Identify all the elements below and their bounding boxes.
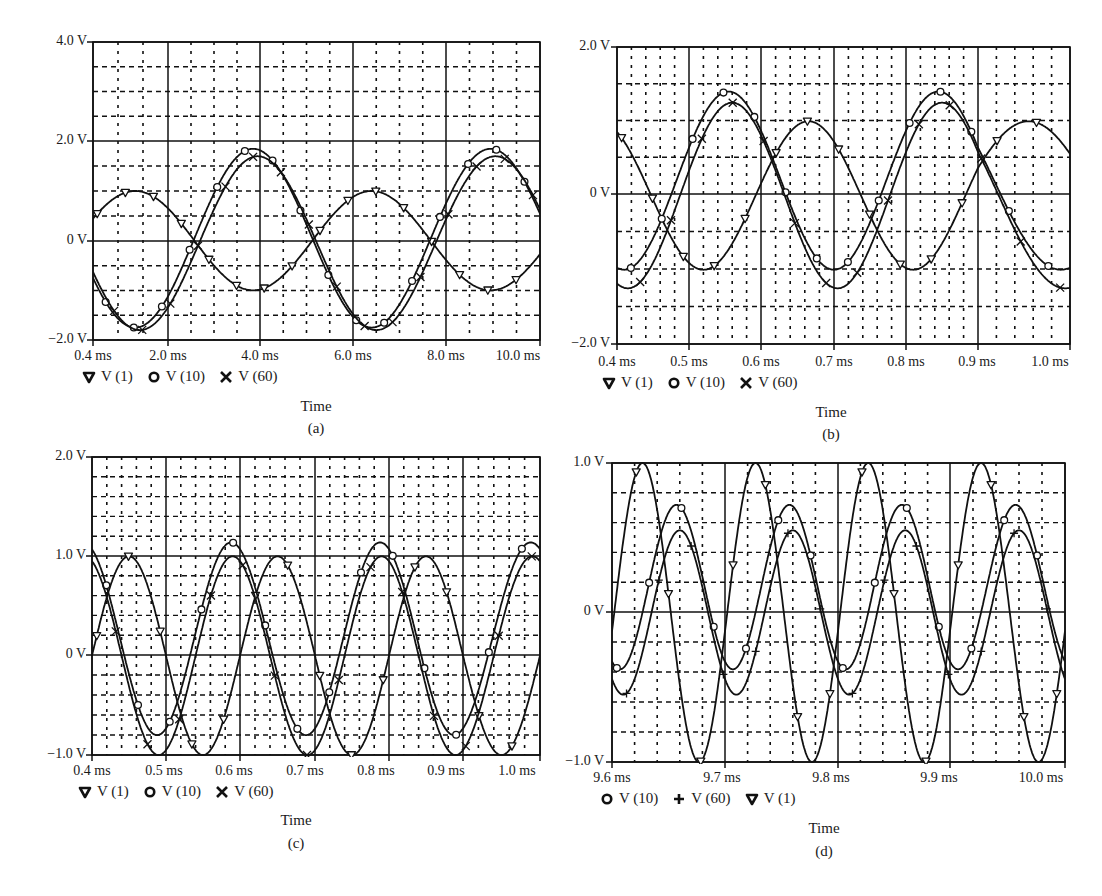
panel-label: (d) [815,843,833,860]
triangle-down-marker-icon [890,591,898,598]
x-tick-label: 9.9 ms [920,770,957,786]
triangle-down-marker-icon [987,482,995,489]
circle-marker-icon [775,517,782,524]
triangle-down-marker-icon [954,562,962,569]
triangle-down-marker-icon [729,562,737,569]
plus-marker-icon [655,576,663,584]
triangle-down-marker-icon [1053,691,1061,698]
triangle-down-marker-icon [826,691,834,698]
chart-panel-d: 1.0 V 0 V −1.0 V 9.6 ms 9.7 ms 9.8 ms 9.… [0,0,1102,896]
circle-marker-icon [968,645,975,652]
y-tick-label: −1.0 V [544,753,604,769]
plus-marker-icon [674,794,684,804]
x-axis-title: Time [808,820,839,837]
circle-marker-icon [743,645,750,652]
x-tick-label: 10.0 ms [1019,770,1063,786]
legend-item: V (1) [745,790,796,807]
plus-marker-icon [880,576,888,584]
triangle-down-marker-icon [665,591,673,598]
circle-marker-icon [903,505,910,512]
legend: V (10)V (60)V (1) [600,790,809,807]
triangle-down-marker-icon [1020,714,1028,721]
plus-marker-icon [977,647,985,655]
legend-label: V (10) [619,790,658,807]
circle-marker-icon [603,794,612,803]
legend-item: V (10) [600,790,658,807]
x-tick-label: 9.7 ms [703,770,740,786]
circle-marker-icon [646,579,653,586]
triangle-down-marker-icon [858,469,866,476]
x-tick-label: 9.8 ms [812,770,849,786]
triangle-down-marker-icon [632,469,640,476]
circle-marker-icon [871,579,878,586]
triangle-down-marker-icon [761,482,769,489]
x-tick-label: 9.6 ms [593,770,630,786]
y-tick-label: 0 V [544,603,604,619]
legend-item: V (60) [672,790,730,807]
circle-marker-icon [678,505,685,512]
triangle-down-marker-icon [747,795,757,804]
legend-label: V (1) [764,790,796,807]
circle-marker-icon [1001,517,1008,524]
plus-marker-icon [752,647,760,655]
circle-marker-icon [613,665,620,672]
legend-label: V (60) [691,790,730,807]
y-tick-label: 1.0 V [544,454,604,470]
circle-marker-icon [839,665,846,672]
triangle-down-marker-icon [794,714,802,721]
